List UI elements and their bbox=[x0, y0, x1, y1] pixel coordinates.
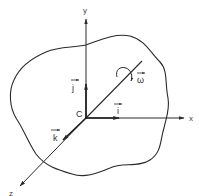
x-axis-label: x bbox=[189, 114, 193, 123]
rigid-body-outline bbox=[10, 35, 168, 175]
rigid-body-diagram: y x z C j i k ω bbox=[0, 0, 199, 196]
j-label: j bbox=[71, 83, 74, 93]
unit-vector-k bbox=[63, 118, 86, 140]
origin-label: C bbox=[76, 109, 83, 119]
rotation-axis bbox=[86, 61, 142, 118]
z-axis-label: z bbox=[9, 189, 13, 196]
i-label: i bbox=[117, 106, 119, 116]
k-label: k bbox=[53, 133, 58, 143]
y-axis-label: y bbox=[83, 6, 87, 15]
omega-label: ω bbox=[137, 75, 144, 85]
